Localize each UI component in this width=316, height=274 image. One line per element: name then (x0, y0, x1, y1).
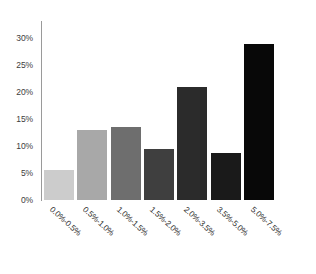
bar-slot (242, 22, 275, 200)
x-axis-tick-label: 5.0%-7.5% (249, 205, 284, 238)
x-axis-tick-slot: 0.0%-0.5% (42, 200, 75, 274)
x-axis-tick-slot: 0.5%-1.0% (75, 200, 108, 274)
y-axis-tick-label: 15% (16, 114, 33, 124)
bar[interactable] (177, 87, 207, 200)
bar[interactable] (77, 130, 107, 200)
y-axis-tick-label: 20% (16, 87, 33, 97)
y-axis-tick-label: 10% (16, 141, 33, 151)
bar-slot (42, 22, 75, 200)
bar-slot (142, 22, 175, 200)
bar-series (42, 22, 276, 200)
bar[interactable] (44, 170, 74, 200)
y-axis-tick-label: 30% (16, 33, 33, 43)
bar-slot (176, 22, 209, 200)
y-axis-tick-label: 0% (21, 195, 33, 205)
bar[interactable] (211, 153, 241, 200)
bar-slot (109, 22, 142, 200)
bar[interactable] (111, 127, 141, 200)
x-axis-tick-slot: 2.0%-3.5% (176, 200, 209, 274)
y-axis-tick-labels: 0%5%10%15%20%25%30% (0, 0, 38, 274)
x-axis-tick-slot: 5.0%-7.5% (243, 200, 276, 274)
y-axis-tick-label: 25% (16, 60, 33, 70)
y-axis-tick-label: 5% (21, 168, 33, 178)
bar-chart: 0%5%10%15%20%25%30% 0.0%-0.5%0.5%-1.0%1.… (0, 0, 316, 274)
bar[interactable] (144, 149, 174, 200)
x-axis-tick-slot: 1.0%-1.5% (109, 200, 142, 274)
bar[interactable] (244, 44, 274, 200)
plot-area (42, 22, 276, 200)
x-axis-tick-labels: 0.0%-0.5%0.5%-1.0%1.0%-1.5%1.5%-2.0%2.0%… (42, 200, 276, 274)
x-axis-tick-slot: 1.5%-2.0% (142, 200, 175, 274)
bar-slot (75, 22, 108, 200)
bar-slot (209, 22, 242, 200)
x-axis-tick-slot: 3.5%-5.0% (209, 200, 242, 274)
